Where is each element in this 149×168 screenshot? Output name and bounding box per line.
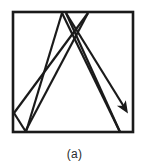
figure-background: [0, 0, 149, 145]
figure-caption: (a): [0, 146, 149, 162]
billiard-diagram: [0, 0, 149, 145]
figure-container: (a): [0, 0, 149, 168]
